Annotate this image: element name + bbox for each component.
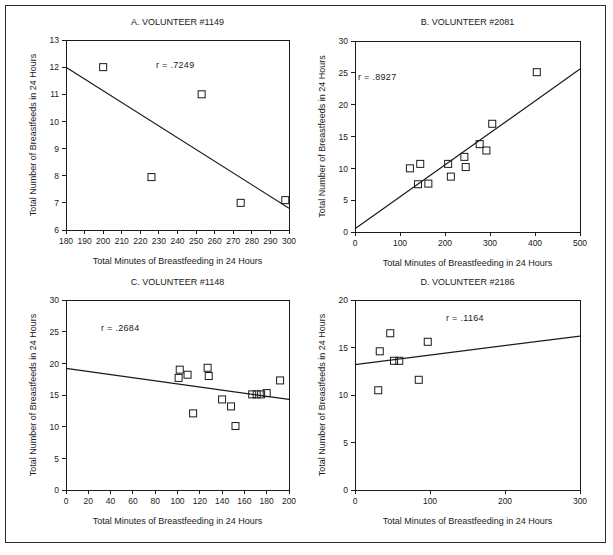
data-point-marker [424,338,431,345]
x-axis-label: Total Minutes of Breastfeeding in 24 Hou… [93,516,263,526]
y-tick-label: 13 [50,35,60,45]
x-tick-label: 80 [150,496,160,506]
x-tick-label: 100 [422,496,436,506]
x-axis-label: Total Minutes of Breastfeeding in 24 Hou… [382,258,552,268]
x-tick-label: 60 [128,496,138,506]
data-point-marker [415,376,422,383]
plot-frame [355,41,580,232]
y-tick-label: 7 [54,198,59,208]
y-tick-label: 12 [50,62,60,72]
x-tick-label: 260 [208,236,222,246]
x-tick-label: 300 [572,496,586,506]
chart-d: D. VOLUNTEER #2186051015200100200300r = … [306,274,605,542]
y-tick-label: 15 [338,343,348,353]
x-tick-label: 0 [352,496,357,506]
y-tick-label: 20 [338,100,348,110]
y-tick-label: 30 [50,295,60,305]
y-tick-label: 20 [50,359,60,369]
correlation-annotation: r = .2684 [101,323,139,333]
y-tick-label: 10 [338,164,348,174]
x-axis-label: Total Minutes of Breastfeeding in 24 Hou… [93,256,263,266]
x-tick-label: 0 [64,496,69,506]
data-point-marker [482,147,489,154]
y-tick-label: 15 [50,390,60,400]
panel-d: D. VOLUNTEER #2186051015200100200300r = … [306,274,606,542]
y-tick-label: 25 [338,68,348,78]
y-axis-label: Total Number of Breastfeeds in 24 Hours [28,53,38,216]
data-point-marker [376,348,383,355]
y-tick-label: 8 [54,171,59,181]
data-point-marker [386,330,393,337]
panel-title: C. VOLUNTEER #1148 [131,277,224,287]
panel-title: D. VOLUNTEER #2186 [420,277,514,287]
x-tick-label: 20 [84,496,94,506]
panel-b: B. VOLUNTEER #20810510152025300100200300… [306,6,606,274]
x-tick-label: 300 [282,236,296,246]
x-tick-label: 220 [133,236,147,246]
data-point-marker [447,173,454,180]
x-tick-label: 160 [237,496,251,506]
y-tick-label: 5 [343,195,348,205]
data-point-marker [228,403,235,410]
y-tick-label: 9 [54,144,59,154]
data-point-marker [176,366,183,373]
y-tick-label: 20 [338,295,348,305]
data-point-marker [488,120,495,127]
y-tick-label: 0 [343,485,348,495]
y-tick-label: 10 [50,422,60,432]
x-tick-label: 270 [226,236,240,246]
x-tick-label: 40 [106,496,116,506]
y-tick-label: 15 [338,132,348,142]
x-tick-label: 500 [572,238,586,248]
y-tick-label: 25 [50,327,60,337]
data-point-marker [462,164,469,171]
y-tick-label: 11 [50,89,59,99]
x-tick-label: 180 [59,236,73,246]
x-tick-label: 100 [392,238,406,248]
regression-line [355,336,580,365]
x-tick-label: 120 [193,496,207,506]
x-tick-label: 240 [170,236,184,246]
data-point-marker [184,371,191,378]
x-tick-label: 100 [170,496,184,506]
y-tick-label: 0 [54,485,59,495]
x-axis-label: Total Minutes of Breastfeeding in 24 Hou… [382,516,552,526]
x-tick-label: 250 [189,236,203,246]
x-tick-label: 210 [115,236,129,246]
y-tick-label: 6 [54,225,59,235]
y-tick-label: 10 [50,117,60,127]
x-tick-label: 290 [263,236,277,246]
x-tick-label: 190 [77,236,91,246]
regression-line [66,67,289,208]
data-point-marker [219,396,226,403]
x-tick-label: 230 [152,236,166,246]
x-tick-label: 180 [260,496,274,506]
x-tick-label: 280 [245,236,259,246]
chart-c: C. VOLUNTEER #11480510152025300204060801… [6,274,305,542]
y-axis-label: Total Number of Breastfeeds in 24 Hours [317,55,327,218]
y-axis-label: Total Number of Breastfeeds in 24 Hours [317,313,327,476]
x-tick-label: 0 [352,238,357,248]
data-point-marker [374,387,381,394]
figure-panel-container: A. VOLUNTEER #11496789101112131801902002… [0,0,613,555]
data-point-marker [406,165,413,172]
chart-a: A. VOLUNTEER #11496789101112131801902002… [6,6,305,274]
panel-grid: A. VOLUNTEER #11496789101112131801902002… [6,6,605,542]
data-point-marker [232,423,239,430]
regression-line [355,69,580,229]
y-axis-label: Total Number of Breastfeeds in 24 Hours [28,313,38,476]
y-tick-label: 5 [54,454,59,464]
correlation-annotation: r = .8927 [358,72,396,82]
panel-a: A. VOLUNTEER #11496789101112131801902002… [6,6,306,274]
correlation-annotation: r = .7249 [156,60,194,70]
data-point-marker [416,160,423,167]
data-point-marker [282,197,289,204]
plot-frame [355,300,580,490]
data-point-marker [100,64,107,71]
x-tick-label: 200 [282,496,296,506]
x-tick-label: 200 [497,496,511,506]
y-tick-label: 5 [343,438,348,448]
x-tick-label: 200 [96,236,110,246]
data-point-marker [204,364,211,371]
panel-title: A. VOLUNTEER #1149 [131,17,224,27]
